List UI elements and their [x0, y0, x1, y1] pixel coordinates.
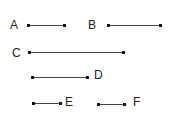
label-c: C [12, 47, 21, 59]
segment-b [108, 25, 161, 26]
endpoint-icon [28, 51, 31, 54]
endpoint-icon [31, 76, 34, 79]
endpoint-icon [63, 24, 66, 27]
label-b: B [88, 19, 96, 31]
endpoint-icon [27, 24, 30, 27]
segment-e [33, 103, 61, 104]
endpoint-icon [123, 103, 126, 106]
label-e: E [65, 96, 73, 108]
endpoint-icon [59, 102, 62, 105]
endpoint-icon [107, 24, 110, 27]
label-a: A [10, 19, 18, 31]
segment-d [32, 77, 88, 78]
endpoint-icon [97, 103, 100, 106]
endpoint-icon [159, 24, 162, 27]
endpoint-icon [122, 51, 125, 54]
label-f: F [133, 96, 140, 108]
segment-f [98, 104, 125, 105]
endpoint-icon [32, 102, 35, 105]
segment-a [28, 25, 65, 26]
endpoint-icon [86, 76, 89, 79]
segment-c [29, 52, 124, 53]
label-d: D [94, 69, 103, 81]
